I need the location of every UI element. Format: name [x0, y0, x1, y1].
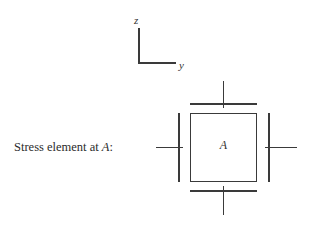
axis-y-line: [138, 62, 176, 64]
stress-element-center-label: A: [190, 139, 257, 151]
stress-arrow-top-stem: [223, 81, 225, 108]
axis-label-z: z: [134, 15, 138, 26]
axis-z-line: [138, 28, 140, 64]
stress-arrow-bottom-stem: [223, 186, 225, 215]
caption-text-before: Stress element at: [14, 140, 102, 154]
caption-text-after: :: [109, 140, 112, 154]
axis-label-y: y: [179, 60, 184, 71]
caption: Stress element at A:: [14, 140, 113, 154]
stress-arrow-left-stem: [156, 147, 183, 149]
stress-element-figure: z y Stress element at A: A: [0, 0, 312, 237]
stress-arrow-right-stem: [265, 147, 297, 149]
